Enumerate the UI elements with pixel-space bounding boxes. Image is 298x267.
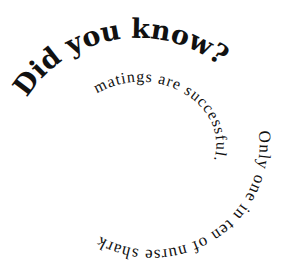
spiral-outer-text: Only one in ten of nurse shark (92, 130, 274, 265)
spiral-text-graphic: Did you know? Only one in ten of nurse s… (0, 0, 298, 267)
spiral-inner-text: matings are successful. (91, 68, 231, 165)
